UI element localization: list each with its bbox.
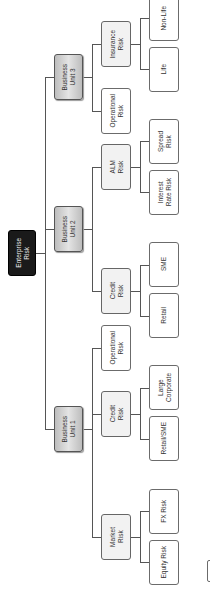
- connector: [83, 229, 92, 230]
- connector: [92, 537, 101, 538]
- connector: [83, 77, 92, 78]
- connector: [140, 69, 149, 70]
- connector: [45, 229, 54, 230]
- connector: [131, 44, 140, 45]
- operational-risk-bu1-node: Operational Risk: [101, 325, 131, 371]
- node-label: Non-Life: [160, 6, 168, 31]
- connector: [92, 348, 93, 538]
- connector: [140, 388, 141, 440]
- node-label: Large Corporate: [157, 373, 172, 402]
- connector: [45, 77, 46, 430]
- connector: [36, 253, 45, 254]
- node-label: Operational Risk: [109, 331, 124, 365]
- life-node: Life: [149, 47, 179, 92]
- business-unit-1-node: Business Unit 1: [54, 406, 83, 452]
- node-label: SME: [160, 257, 168, 271]
- node-label: Spread Risk: [157, 131, 172, 152]
- node-label: Business Unit 3: [61, 64, 76, 90]
- node-label: Credit Risk: [109, 282, 124, 299]
- fx-risk-node: FX Risk: [149, 489, 179, 534]
- connector: [140, 388, 149, 389]
- retail-sme-node: Retail/SME: [149, 416, 179, 461]
- node-label: Equity Risk: [160, 546, 168, 579]
- credit-risk-bu1-node: Credit Risk: [101, 391, 131, 437]
- connector: [131, 414, 140, 415]
- node-label: Life: [160, 64, 168, 74]
- connector: [140, 511, 141, 563]
- interest-rate-risk-node: Interest Rate Risk: [149, 170, 179, 215]
- connector: [45, 77, 54, 78]
- spread-risk-node: Spread Risk: [149, 119, 179, 164]
- credit-risk-bu2-node: Credit Risk: [101, 268, 131, 314]
- connector: [140, 316, 149, 317]
- connector: [92, 111, 101, 112]
- connector: [140, 562, 149, 563]
- connector: [92, 414, 101, 415]
- node-label: Enterprise Risk: [15, 238, 30, 268]
- connector: [140, 141, 149, 142]
- large-corporate-node: Large Corporate: [149, 365, 179, 410]
- node-label: ALM Risk: [109, 160, 124, 173]
- connector: [140, 18, 149, 19]
- connector: [92, 44, 93, 111]
- operational-risk-bu3-node: Operational Risk: [101, 88, 131, 134]
- insurance-risk-node: Insurance Risk: [101, 21, 131, 67]
- connector: [131, 537, 140, 538]
- node-label: Retail/SME: [160, 422, 168, 455]
- node-label: Interest Rate Risk: [157, 178, 172, 206]
- node-label: Business Unit 1: [61, 416, 76, 442]
- sme-node: SME: [149, 242, 179, 287]
- node-label: Business Unit 2: [61, 216, 76, 242]
- connector: [140, 265, 141, 317]
- connector: [83, 429, 92, 430]
- node-label: Market Risk: [109, 527, 124, 547]
- node-label: Insurance Risk: [109, 30, 124, 59]
- alm-risk-node: ALM Risk: [101, 144, 131, 190]
- connector: [45, 429, 54, 430]
- connector: [92, 348, 101, 349]
- node-label: Operational Risk: [109, 94, 124, 128]
- equity-risk-node: Equity Risk: [149, 540, 179, 585]
- partial-node: [207, 560, 210, 582]
- business-unit-2-node: Business Unit 2: [54, 206, 83, 252]
- connector: [131, 291, 140, 292]
- connector: [140, 18, 141, 70]
- business-unit-3-node: Business Unit 3: [54, 54, 83, 100]
- connector: [92, 291, 101, 292]
- node-label: Retail: [160, 307, 168, 324]
- connector: [131, 167, 140, 168]
- connector: [92, 167, 101, 168]
- node-label: Credit Risk: [109, 405, 124, 422]
- connector: [140, 192, 149, 193]
- connector: [140, 439, 149, 440]
- node-label: FX Risk: [160, 500, 168, 523]
- non-life-node: Non-Life: [149, 0, 179, 41]
- retail-node: Retail: [149, 293, 179, 338]
- connector: [140, 141, 141, 193]
- enterprise-risk-node: Enterprise Risk: [8, 230, 36, 276]
- connector: [140, 265, 149, 266]
- connector: [92, 44, 101, 45]
- connector: [92, 167, 93, 291]
- market-risk-node: Market Risk: [101, 514, 131, 560]
- connector: [140, 511, 149, 512]
